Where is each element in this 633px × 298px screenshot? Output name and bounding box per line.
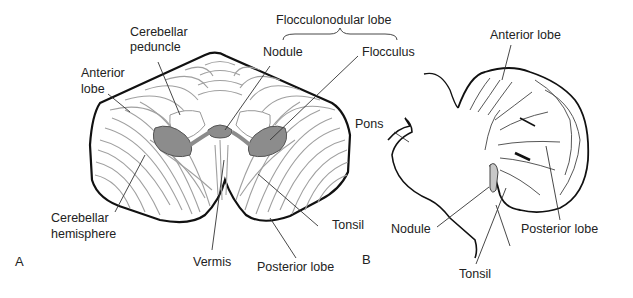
label-tonsil-a: Tonsil (332, 218, 364, 233)
label-tonsil-b: Tonsil (459, 267, 491, 282)
panel-label-a: A (15, 254, 24, 269)
label-posterior-lobe-b: Posterior lobe (521, 222, 598, 237)
label-posterior-lobe-a: Posterior lobe (257, 260, 334, 275)
label-cerebellar-hemisphere-line1: Cerebellar (51, 211, 109, 226)
cerebellum-figure (0, 0, 633, 298)
label-cerebellar-hemisphere-line2: hemisphere (51, 227, 116, 242)
label-cerebellar-peduncle-line1: Cerebellar (130, 25, 188, 40)
label-flocculus: Flocculus (362, 45, 415, 60)
label-nodule-a: Nodule (263, 45, 303, 60)
cerebellum-view-a (90, 53, 350, 222)
panel-label-b: B (362, 252, 371, 267)
nodule-a (208, 125, 232, 138)
pons-outline (388, 118, 477, 258)
nodule-b (490, 164, 498, 193)
label-nodule-b: Nodule (391, 222, 431, 237)
label-flocculonodular-lobe: Flocculonodular lobe (276, 13, 391, 28)
label-anterior-lobe-b: Anterior lobe (490, 28, 561, 43)
cerebellum-sagittal-outline (458, 68, 588, 212)
label-cerebellar-peduncle-line2: peduncle (130, 40, 181, 55)
label-vermis: Vermis (193, 255, 231, 270)
label-pons: Pons (355, 117, 384, 132)
label-anterior-lobe-a-line1: Anterior (81, 66, 125, 81)
label-anterior-lobe-a-line2: lobe (81, 82, 105, 97)
